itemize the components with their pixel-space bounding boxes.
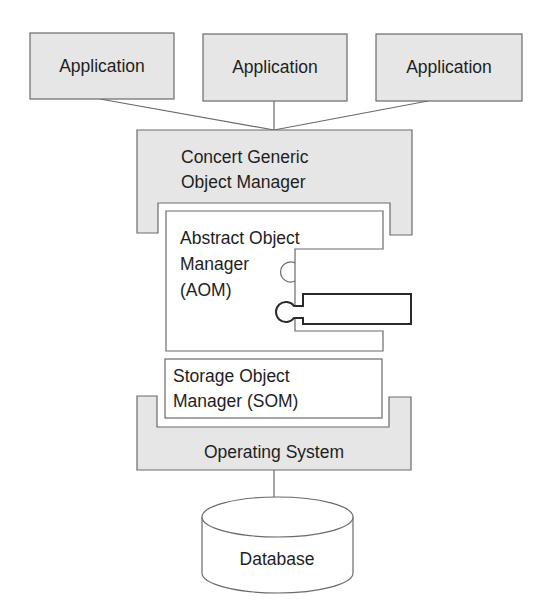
application-label: Application: [59, 56, 145, 76]
architecture-diagram: Application Application Application Conc…: [0, 0, 543, 613]
connector-app3: [274, 101, 428, 130]
application-box-1: Application: [30, 33, 174, 99]
aom-label-line1: Abstract Object: [180, 228, 300, 248]
application-label: Application: [406, 57, 492, 77]
aom-label-line3: (AOM): [180, 280, 232, 300]
database-top-ellipse: [202, 497, 353, 537]
connector-app1: [100, 99, 274, 130]
som-label-line1: Storage Object: [173, 366, 290, 386]
som-label-line2: Manager (SOM): [173, 391, 298, 411]
concert-label-line2: Object Manager: [181, 172, 306, 192]
application-label: Application: [232, 57, 318, 77]
application-box-2: Application: [203, 34, 347, 101]
os-label: Operating System: [204, 442, 344, 462]
application-connectors: [100, 99, 428, 130]
database-cylinder: Database: [202, 497, 353, 593]
application-box-3: Application: [376, 34, 522, 101]
aom-label-line2: Manager: [180, 254, 249, 274]
database-label: Database: [240, 549, 315, 569]
concert-label-line1: Concert Generic: [181, 147, 309, 167]
abstract-object-manager: Abstract Object Manager (AOM): [166, 211, 383, 351]
plugin-component-icon: [276, 294, 411, 324]
storage-object-manager: Storage Object Manager (SOM): [165, 359, 382, 418]
